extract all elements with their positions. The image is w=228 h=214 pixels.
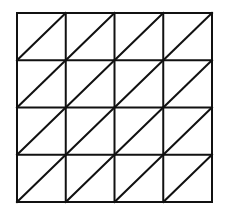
cell-diagonal-line bbox=[66, 60, 115, 107]
cell-diagonal-line bbox=[17, 13, 66, 60]
cell-diagonal-line bbox=[163, 60, 212, 107]
cell-diagonal-line bbox=[66, 155, 115, 202]
grid-diagram bbox=[0, 0, 228, 214]
cell-diagonal-line bbox=[115, 13, 164, 60]
cell-diagonal-line bbox=[17, 108, 66, 155]
cell-diagonal-line bbox=[17, 60, 66, 107]
cell-diagonal-line bbox=[66, 108, 115, 155]
cell-diagonal-line bbox=[163, 108, 212, 155]
cell-diagonal-line bbox=[115, 108, 164, 155]
cell-diagonal-line bbox=[66, 13, 115, 60]
cell-diagonal-line bbox=[17, 155, 66, 202]
cell-diagonal-line bbox=[163, 155, 212, 202]
cell-diagonal-line bbox=[115, 60, 164, 107]
cell-diagonal-line bbox=[163, 13, 212, 60]
cell-diagonal-line bbox=[115, 155, 164, 202]
